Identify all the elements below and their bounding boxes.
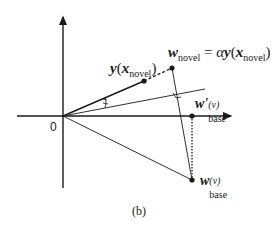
- diagram-figure: 0 y(xnovel) wnovel = αy(xnovel) w'(v)bas…: [0, 0, 280, 226]
- origin-label: 0: [50, 121, 57, 133]
- angle-tick-1: [103, 99, 107, 100]
- w-novel-point: [169, 65, 174, 70]
- w-base-vector: [63, 116, 192, 180]
- w-prime-base-line: [63, 89, 205, 116]
- projection-line: [172, 68, 192, 180]
- w-novel-label: wnovel = αy(xnovel): [168, 45, 270, 63]
- vector-diagram: [0, 0, 280, 226]
- y-novel-vector: [63, 81, 144, 116]
- angle-tick-2: [103, 103, 108, 104]
- angle-arc: [105, 97, 106, 108]
- w-prime-base-label: w'(v)base: [195, 97, 232, 111]
- w-base-point: [189, 177, 194, 182]
- y-novel-point: [141, 78, 146, 83]
- figure-caption: (b): [132, 205, 146, 217]
- w-prime-base-point: [189, 113, 194, 118]
- y-novel-label: y(xnovel): [110, 61, 156, 79]
- w-base-label: w(v)base: [200, 174, 233, 188]
